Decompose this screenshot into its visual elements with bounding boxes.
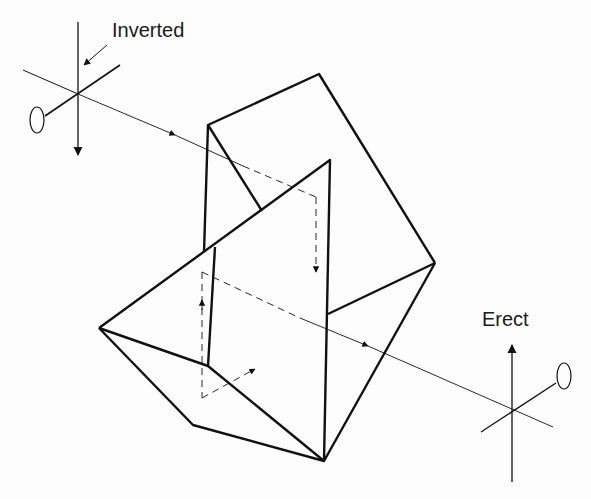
output-axes: [481, 345, 571, 482]
optical-path: [78, 94, 553, 427]
input-axes: [23, 22, 120, 155]
upper-prism: [204, 74, 435, 314]
diagram-drawing: [0, 0, 591, 499]
lower-prism: [99, 160, 435, 461]
porro-prism-diagram: Inverted Erect: [0, 0, 591, 499]
